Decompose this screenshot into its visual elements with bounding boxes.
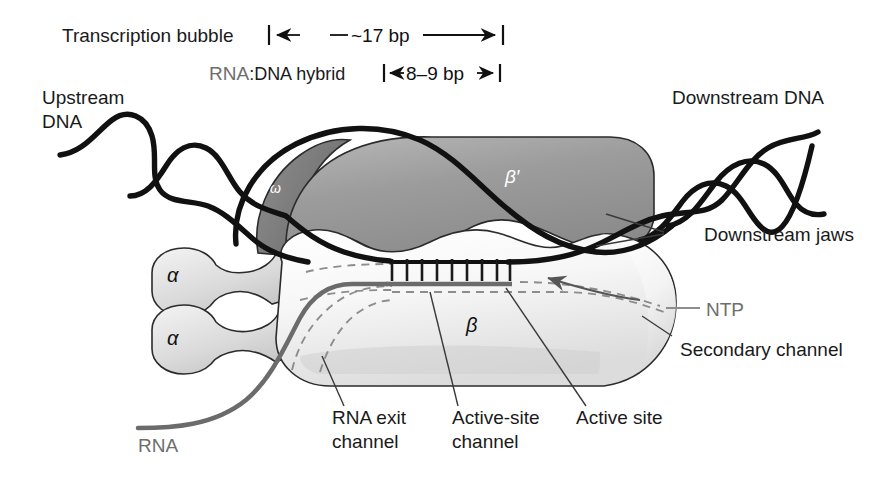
active-site-label: Active site bbox=[576, 407, 663, 428]
secondary-channel-label: Secondary channel bbox=[680, 339, 843, 360]
hybrid-value: 8–9 bp bbox=[406, 63, 464, 84]
beta-label: β bbox=[465, 314, 477, 336]
alpha-label-upper: α bbox=[167, 264, 179, 286]
upstream-dna-label-line2: DNA bbox=[42, 111, 82, 132]
downstream-jaws-label: Downstream jaws bbox=[704, 224, 854, 245]
hybrid-label-prefix: RNA bbox=[209, 63, 249, 84]
transcription-bubble-dimension: Transcription bubble ~17 bp bbox=[62, 25, 503, 46]
downstream-dna-label: Downstream DNA bbox=[672, 87, 824, 108]
beta-prime-label: β′ bbox=[504, 166, 521, 187]
omega-label: ω bbox=[270, 180, 281, 196]
alpha-label-lower: α bbox=[167, 327, 179, 349]
transcription-bubble-label: Transcription bubble bbox=[62, 25, 233, 46]
rna-exit-channel-label-line1: RNA exit bbox=[332, 407, 407, 428]
active-site-channel-label-line2: channel bbox=[452, 431, 519, 452]
transcription-bubble-value: ~17 bp bbox=[351, 25, 410, 46]
figure-canvas: Transcription bubble ~17 bp RNA:DNA hybr… bbox=[0, 0, 885, 490]
hybrid-label-rest: :DNA hybrid bbox=[249, 64, 345, 84]
hybrid-label: RNA:DNA hybrid bbox=[209, 63, 345, 84]
diagram-svg: Transcription bubble ~17 bp RNA:DNA hybr… bbox=[0, 0, 885, 490]
upstream-dna-label-line1: Upstream bbox=[42, 87, 124, 108]
rna-exit-channel-label-line2: channel bbox=[332, 431, 399, 452]
ntp-label: NTP bbox=[706, 299, 744, 320]
rna-label: RNA bbox=[138, 435, 178, 456]
hybrid-dimension: RNA:DNA hybrid 8–9 bp bbox=[209, 63, 500, 84]
active-site-channel-label-line1: Active-site bbox=[452, 407, 540, 428]
